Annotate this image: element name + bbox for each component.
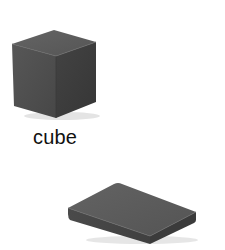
- rectangular-block-image: [64, 180, 200, 246]
- cube-label: cube: [33, 126, 77, 149]
- cube-shape-icon: [6, 26, 102, 122]
- cube-image: [6, 26, 102, 122]
- block-shape-icon: [64, 180, 200, 246]
